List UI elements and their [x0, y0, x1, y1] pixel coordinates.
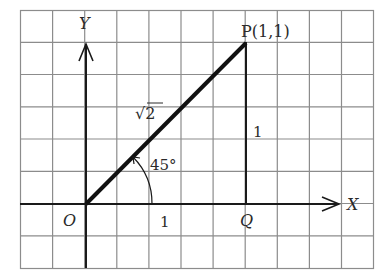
origin-label: O [63, 211, 76, 230]
op-length-label: √2 [135, 104, 155, 123]
oq-length-label: 1 [160, 213, 170, 231]
angle-label: 45° [150, 156, 177, 174]
point-p-label: P(1,1) [241, 22, 290, 41]
y-axis-label: Y [79, 14, 91, 33]
coordinate-diagram: Y X O Q P(1,1) 1 1 √2 45° [0, 0, 381, 280]
segment-op [86, 43, 246, 204]
point-q-label: Q [240, 211, 253, 230]
x-axis-label: X [345, 195, 359, 214]
pq-length-label: 1 [253, 123, 263, 141]
axes [20, 44, 339, 268]
